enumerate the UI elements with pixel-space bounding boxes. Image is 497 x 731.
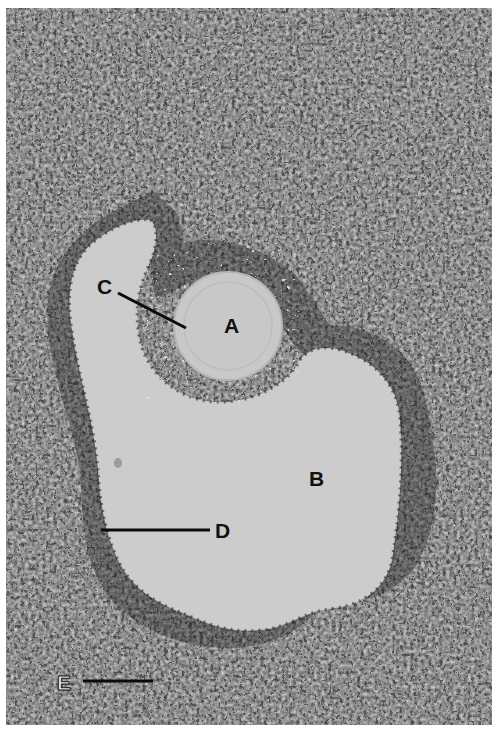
micrograph-figure: A B C D E [6,8,492,725]
label-c-zona-pellucida: C [97,276,112,297]
label-d-granulosa: D [215,520,230,541]
label-a-oocyte: A [224,315,239,336]
tissue-section [6,8,492,725]
label-e-theca: E [57,672,71,693]
label-b-antrum: B [309,468,324,489]
